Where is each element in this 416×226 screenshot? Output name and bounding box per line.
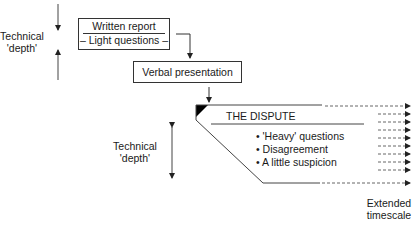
dispute-bullet: A little suspicion	[256, 156, 344, 169]
timescale-label-line2: timescale	[362, 209, 416, 221]
bottom-depth-label: Technical 'depth'	[110, 140, 160, 164]
dispute-corner-fill	[196, 105, 208, 117]
depth-label-line1: Technical	[110, 140, 160, 152]
diagram-connectors	[0, 0, 416, 226]
top-depth-label: Technical 'depth'	[0, 30, 44, 54]
timescale-label-line1: Extended	[362, 197, 416, 209]
written-report-box: Written report – Light questions –	[78, 18, 170, 50]
verbal-presentation-label: Verbal presentation	[134, 62, 241, 82]
dispute-bullet: Disagreement	[256, 143, 344, 156]
depth-label-line2: 'depth'	[110, 152, 160, 164]
written-report-title: Written report	[79, 20, 169, 32]
dispute-bullets: 'Heavy' questions Disagreement A little …	[256, 130, 344, 169]
written-report-subtitle: – Light questions –	[79, 34, 169, 46]
dispute-title: THE DISPUTE	[226, 110, 295, 122]
depth-label-line1: Technical	[0, 30, 44, 42]
verbal-presentation-box: Verbal presentation	[133, 61, 242, 83]
dispute-bullet: 'Heavy' questions	[256, 130, 344, 143]
depth-label-line2: 'depth'	[0, 42, 44, 54]
timescale-label: Extended timescale	[362, 197, 416, 221]
connector-report-to-verbal	[176, 34, 190, 58]
